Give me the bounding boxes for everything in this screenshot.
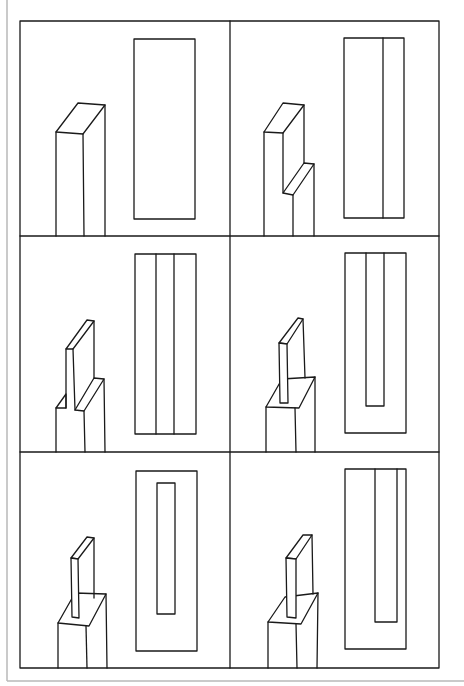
- plan-view: [345, 253, 406, 433]
- plan-outline: [134, 39, 195, 219]
- plan-outline: [344, 38, 404, 218]
- plan-inner-rect: [157, 483, 175, 614]
- block-edge: [317, 593, 318, 668]
- block-edge: [83, 134, 84, 236]
- base-top-face: [58, 593, 106, 626]
- block-edge: [295, 408, 296, 452]
- panel-5: [58, 471, 197, 668]
- fin-front-face: [71, 558, 79, 618]
- panel-3: [56, 254, 196, 452]
- ledge-top-face: [283, 163, 314, 195]
- plan-view: [344, 38, 404, 218]
- fin-front-face: [279, 343, 288, 403]
- block-edge: [84, 411, 85, 452]
- block-edge: [104, 379, 105, 452]
- plan-u-slot: [366, 253, 384, 406]
- fin-top-face: [264, 103, 304, 133]
- block-top-face: [56, 103, 105, 134]
- isometric-block: [268, 535, 318, 668]
- plan-view: [134, 39, 195, 219]
- diagram-figure: Six-panel line drawing: each panel shows…: [0, 0, 464, 686]
- isometric-block: [56, 320, 105, 452]
- panel-1: [56, 39, 195, 236]
- fin-top-face: [71, 537, 94, 559]
- panel-4: [266, 253, 406, 452]
- panel-6: [268, 469, 406, 668]
- isometric-block: [264, 103, 314, 236]
- base-top-face: [266, 377, 315, 408]
- fin-top-face: [66, 320, 94, 349]
- isometric-block: [266, 318, 315, 452]
- fin-edge: [73, 349, 75, 410]
- plan-view: [135, 254, 196, 434]
- fin-edge: [312, 535, 313, 594]
- block-edge: [296, 624, 297, 668]
- plan-view: [136, 471, 197, 651]
- right-ledge-face: [75, 378, 104, 411]
- plan-outline: [135, 254, 196, 434]
- fin-top-face: [279, 318, 303, 344]
- fin-top-face: [286, 535, 312, 559]
- isometric-block: [56, 103, 105, 236]
- fin-front-face: [286, 558, 296, 618]
- plan-view: [345, 469, 406, 649]
- block-edge: [86, 626, 87, 668]
- diagram-canvas: [0, 0, 464, 686]
- panel-2: [264, 38, 404, 236]
- left-ledge-face: [56, 394, 66, 408]
- block-edge: [106, 594, 107, 668]
- isometric-block: [58, 537, 107, 668]
- plan-u-slot: [375, 469, 397, 622]
- fin-edge: [303, 319, 305, 378]
- plan-outline: [136, 471, 197, 651]
